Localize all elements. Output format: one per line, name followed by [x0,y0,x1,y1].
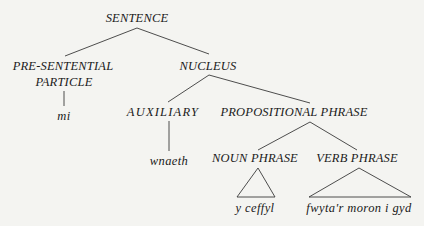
edge-nucleus-propositional [209,75,310,103]
leaf-y-ceffyl: y ceffyl [236,201,275,215]
node-pre-sentential-line2: PARTICLE [36,75,93,89]
node-nucleus: NUCLEUS [180,59,237,73]
edge-propositional-np [258,122,310,150]
edge-nucleus-auxiliary [168,75,209,102]
edge-propositional-vp [310,122,357,150]
node-auxiliary: AUXILIARY [127,105,199,119]
node-sentence: SENTENCE [106,11,169,25]
node-verb-phrase: VERB PHRASE [316,151,398,165]
vp-triangle [309,168,411,197]
leaf-mi: mi [57,109,70,123]
node-noun-phrase: NOUN PHRASE [212,151,298,165]
edge-sentence-nucleus [137,28,209,54]
node-pre-sentential-line1: PRE-SENTENTIAL [13,59,114,73]
leaf-fwytar-moron-i-gyd: fwyta'r moron i gyd [306,201,411,215]
edge-sentence-particle [65,28,137,56]
np-triangle [237,168,275,197]
node-propositional-phrase: PROPOSITIONAL PHRASE [220,105,367,119]
leaf-wnaeth: wnaeth [150,154,189,168]
